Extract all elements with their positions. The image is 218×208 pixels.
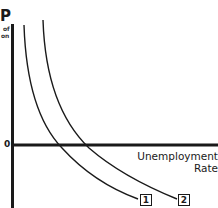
curve-2-tag: 2 — [178, 194, 190, 206]
y-axis-label: P — [0, 9, 11, 24]
diagram-canvas: P of on 0 Unemployment Rate 1 2 — [0, 0, 218, 208]
curve-1 — [24, 25, 138, 199]
y-axis-label-sub-2: on — [1, 33, 9, 39]
curve-2 — [43, 20, 177, 199]
x-axis-label-line-1: Unemployment — [137, 151, 218, 162]
phillips-curve-plot — [0, 0, 218, 208]
curve-1-tag: 1 — [140, 194, 152, 206]
x-axis-label-line-2: Rate — [194, 163, 218, 174]
origin-label: 0 — [4, 140, 10, 149]
